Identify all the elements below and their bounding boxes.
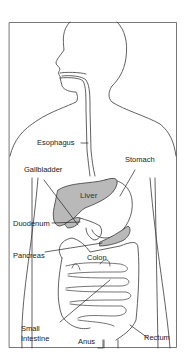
label-anus: Anus [78,338,95,346]
liver [53,178,117,226]
mouth [60,72,86,74]
body-outline [10,22,78,156]
body-outline-right [109,22,176,156]
label-stomach: Stomach [125,156,155,164]
label-small-intestine-line1: Small [21,325,40,333]
label-rectum: Rectum [144,334,170,342]
label-small-intestine-line2: Intestine [21,335,49,343]
label-liver: Liver [80,192,97,200]
pancreas [100,226,130,246]
label-colon: Colon [87,254,107,262]
anatomy-illustration [0,0,189,364]
label-pancreas: Pancreas [13,252,45,260]
label-gallbladder: Gallbladder [24,166,62,174]
label-esophagus: Esophagus [37,139,75,147]
small-intestine-coils [66,260,131,326]
label-duodenum: Duodenum [13,220,50,228]
